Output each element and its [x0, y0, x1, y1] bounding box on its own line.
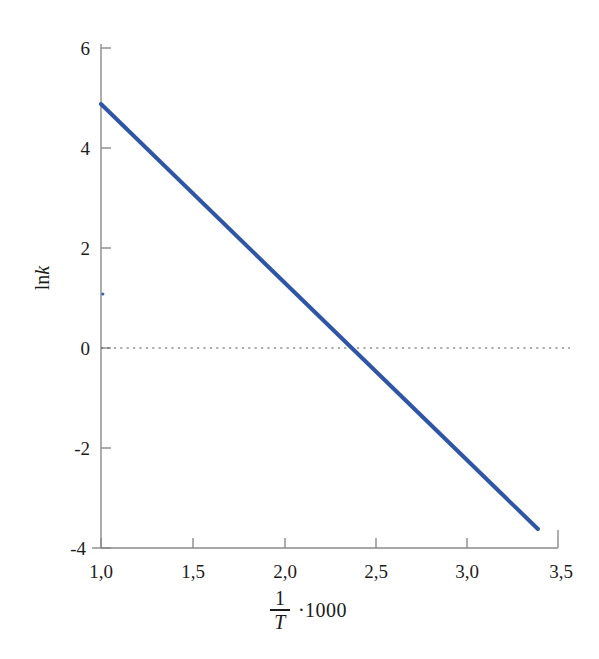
y-tick-label-0: 0: [81, 338, 91, 359]
stray-point-marker: [101, 292, 104, 295]
y-tick-label-4: 4: [81, 138, 91, 159]
x-axis-label-factor: ·1000: [298, 599, 347, 622]
x-tick-label-3-0: 3,0: [455, 561, 479, 582]
x-axis-label-denominator: T: [270, 611, 289, 632]
y-axis-label: lnk: [32, 258, 52, 298]
y-tick-label-minus-2: -2: [74, 438, 90, 459]
series-line-ln-k: [101, 104, 538, 529]
x-axis-label-fraction: 1 T: [270, 588, 290, 632]
x-tick-label-1-0: 1,0: [89, 561, 113, 582]
x-tick-label-2-0: 2,0: [273, 561, 297, 582]
arrhenius-plot: 6 4 2 0 -2 -4 1,0 1,5 2,0 2,5 3,0 3,5 ln…: [0, 0, 599, 659]
x-axis-label: 1 T ·1000: [0, 588, 599, 632]
y-axis-label-variable: k: [31, 266, 53, 275]
y-axis-label-prefix: ln: [31, 275, 53, 291]
x-tick-label-1-5: 1,5: [181, 561, 205, 582]
x-axis-label-numerator: 1: [271, 588, 289, 609]
x-tick-label-3-5: 3,5: [549, 561, 573, 582]
x-tick-label-2-5: 2,5: [364, 561, 388, 582]
plot-canvas: 6 4 2 0 -2 -4 1,0 1,5 2,0 2,5 3,0 3,5: [0, 0, 599, 659]
y-tick-label-minus-4: -4: [70, 538, 86, 559]
y-tick-label-6: 6: [81, 38, 91, 59]
y-tick-label-2: 2: [81, 238, 91, 259]
